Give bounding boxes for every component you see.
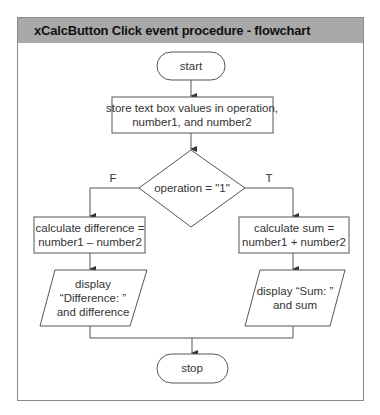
difference-output-line3: and difference [57,306,130,318]
flowchart-diagram: start store text box values in operation… [0,0,380,415]
stop-label: stop [181,362,203,374]
sum-output-line1: display “Sum: ” [257,285,334,297]
sum-output-line2: and sum [273,299,317,311]
sum-output-parallelogram [245,270,345,326]
sum-process-line1: calculate sum = [254,222,335,234]
true-branch-label: T [265,172,272,184]
difference-process-line1: calculate difference = [36,222,145,234]
difference-process-line2: number1 – number2 [38,236,142,248]
difference-output-line1: display [75,278,111,290]
store-process-line2: number1, and number2 [132,116,252,128]
false-branch-label: F [109,172,116,184]
sum-process-line2: number1 + number2 [242,236,346,248]
start-label: start [180,60,203,72]
decision-label: operation = "1" [154,182,230,194]
store-process-line1: store text box values in operation, [106,102,278,114]
difference-output-line2: “Difference: ” [60,292,126,304]
